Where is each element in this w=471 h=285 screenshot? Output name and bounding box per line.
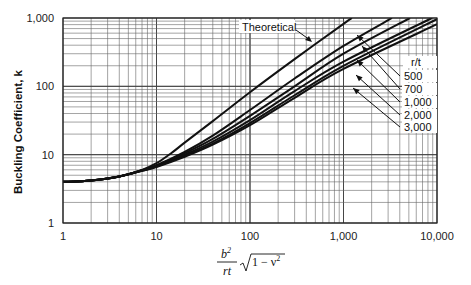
y-axis-ticks: 1101001,000 [26, 12, 54, 229]
series-1000 [63, 18, 432, 182]
legend-title: r/t [411, 56, 421, 68]
x-tick-label: 1,000 [330, 230, 358, 242]
legend-entry: 1,000 [404, 96, 432, 108]
series-700 [63, 18, 410, 182]
y-tick-label: 1 [48, 217, 54, 229]
buckling-coefficient-chart: 1101001,00010,000 1101001,000 Buckling C… [0, 0, 471, 285]
svg-text:1 − ν2: 1 − ν2 [252, 254, 280, 269]
xlabel-denominator: rt [223, 264, 232, 278]
series-theoretical [63, 18, 352, 182]
y-tick-label: 10 [42, 149, 54, 161]
annotations: Theoreticalr/t5007001,0002,0003,000 [239, 20, 437, 133]
y-axis-label: Buckling Coefficient, k [12, 69, 24, 194]
xlabel-radical: 1 − ν [252, 255, 277, 269]
svg-text:b2: b2 [221, 246, 231, 261]
x-axis-ticks: 1101001,00010,000 [60, 230, 454, 242]
legend-entry: 3,000 [404, 121, 432, 133]
legend-entry: 500 [404, 70, 422, 82]
legend-leader-line [362, 46, 400, 89]
legend-entry: 700 [404, 83, 422, 95]
theoretical-label: Theoretical [242, 21, 296, 33]
y-tick-label: 1,000 [26, 12, 54, 24]
x-tick-label: 10 [150, 230, 162, 242]
legend-entry: 2,000 [404, 109, 432, 121]
y-tick-label: 100 [36, 80, 54, 92]
xlabel-numerator-sup: 2 [227, 246, 231, 255]
x-tick-label: 1 [60, 230, 66, 242]
series-500 [63, 18, 392, 182]
xlabel-radical-sup: 2 [276, 254, 280, 263]
x-axis-label: b2 rt 1 − ν2 [217, 246, 285, 278]
x-tick-label: 100 [241, 230, 259, 242]
x-tick-label: 10,000 [420, 230, 454, 242]
